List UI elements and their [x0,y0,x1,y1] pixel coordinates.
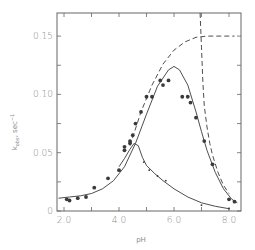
small-data-point [148,169,150,171]
dashed-curve [130,36,235,146]
small-data-point [201,204,203,206]
data-point [189,101,193,105]
data-point [194,116,198,120]
chart-plot: 2.04.06.08.0 00.050.100.15 pH kobs, sec−… [0,0,255,250]
data-point [158,79,162,83]
small-data-point [157,175,159,177]
dashed-curve [200,13,229,194]
data-point [117,168,121,172]
plot-frame [57,13,241,211]
x-tick-label: 8.0 [222,215,236,225]
data-point [123,148,127,152]
data-point [76,196,80,200]
y-tick-label: 0 [47,206,53,216]
data-point [233,200,237,204]
x-tick-label: 2.0 [57,215,71,225]
plot-border [57,13,241,211]
data-point [180,95,184,99]
data-point [139,110,143,114]
data-point [68,199,72,203]
data-point [227,197,231,201]
x-axis-label: pH [136,236,146,244]
data-point [161,83,165,87]
x-tick-label: 4.0 [112,215,126,225]
small-data-point [228,208,230,210]
data-point [106,176,110,180]
data-point [92,186,96,190]
y-tick-label: 0.05 [33,148,53,158]
small-data-point [165,180,167,182]
data-point [131,133,135,137]
data-point [84,195,88,199]
x-tick-label: 6.0 [167,215,181,225]
data-point [186,95,190,99]
data-point [145,95,149,99]
data-point [123,145,127,149]
y-tick-label: 0.15 [33,31,53,41]
x-axis-ticks: 2.04.06.08.0 [57,13,236,225]
small-data-point [143,161,145,163]
solid-curve [119,143,229,208]
fit-curves [59,13,238,209]
data-point [211,162,215,166]
data-point [167,79,171,83]
data-point [150,95,154,99]
data-point [202,139,206,143]
data-points [65,79,237,210]
data-point [134,122,138,126]
y-axis-label: kobs, sec−1 [9,114,20,151]
y-tick-label: 0.10 [33,89,53,99]
data-point [128,139,132,143]
solid-curve [59,66,238,202]
